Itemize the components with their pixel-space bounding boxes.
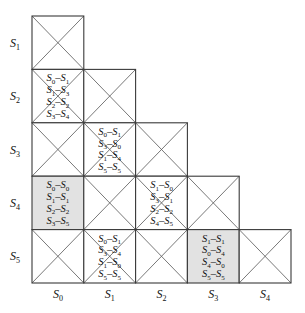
matrix-cells: S0–S1S1–S3S2–S2S3–S4S0–S1S3–S0S1–S4S5–S5… <box>32 16 291 283</box>
matrix-cell <box>187 176 239 229</box>
matrix-cell <box>84 176 136 229</box>
column-label: S0 <box>53 287 63 303</box>
row-label: S5 <box>10 249 20 265</box>
matrix-cell <box>84 69 136 122</box>
row-labels: S1S2S3S4S5 <box>10 36 20 266</box>
matrix-cell: S0–S1S3–S4S1–S0S5–S5 <box>84 230 136 283</box>
matrix-cell: S0–S1S1–S3S2–S2S3–S4 <box>32 69 84 122</box>
matrix-cell <box>32 123 84 176</box>
comparison-matrix-diagram: S0–S1S1–S3S2–S2S3–S4S0–S1S3–S0S1–S4S5–S5… <box>0 0 305 313</box>
matrix-cell: S0–S1S3–S0S1–S4S5–S5 <box>84 123 136 176</box>
matrix-cell: S0–S0S1–S1S2–S2S3–S5 <box>32 176 84 229</box>
row-label: S2 <box>10 89 20 105</box>
matrix-cell: S1–S1S0–S4S4–S0S5–S5 <box>187 230 239 283</box>
column-labels: S0S1S2S3S4 <box>53 287 270 303</box>
column-label: S3 <box>208 287 218 303</box>
matrix-cell <box>32 230 84 283</box>
row-label: S3 <box>10 143 20 159</box>
row-label: S1 <box>10 36 20 52</box>
column-label: S2 <box>157 287 167 303</box>
matrix-cell <box>136 230 188 283</box>
matrix-cell <box>136 123 188 176</box>
column-label: S4 <box>260 287 270 303</box>
column-label: S1 <box>105 287 115 303</box>
matrix-cell: S1–S0S3–S1S2–S2S4–S5 <box>136 176 188 229</box>
row-label: S4 <box>10 196 20 212</box>
matrix-cell <box>32 16 84 69</box>
matrix-cell <box>239 230 291 283</box>
